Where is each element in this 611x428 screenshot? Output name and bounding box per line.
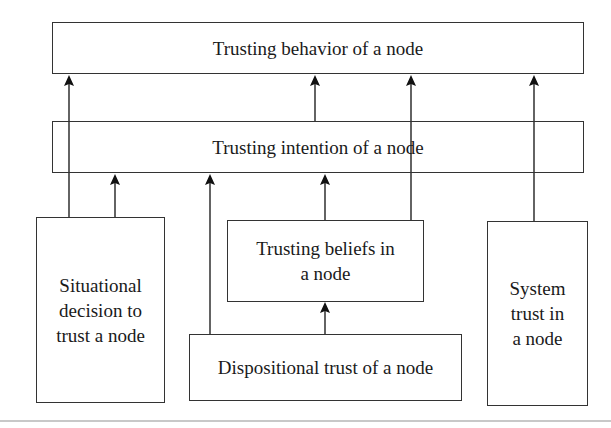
node-situational-decision: Situational decision to trust a node bbox=[36, 217, 165, 403]
node-dispositional-trust: Dispositional trust of a node bbox=[189, 334, 462, 401]
node-label: Trusting behavior of a node bbox=[213, 36, 423, 61]
node-trusting-intention: Trusting intention of a node bbox=[52, 121, 584, 173]
node-system-trust: System trust in a node bbox=[487, 221, 588, 406]
bottom-divider bbox=[0, 420, 611, 422]
node-label: Dispositional trust of a node bbox=[218, 355, 433, 380]
node-trusting-behavior: Trusting behavior of a node bbox=[52, 22, 584, 74]
node-label: Trusting intention of a node bbox=[212, 135, 423, 160]
node-label: Trusting beliefs in a node bbox=[256, 236, 395, 286]
node-label: Situational decision to trust a node bbox=[56, 273, 145, 348]
node-label: System trust in a node bbox=[510, 276, 566, 351]
node-trusting-beliefs: Trusting beliefs in a node bbox=[227, 220, 424, 302]
